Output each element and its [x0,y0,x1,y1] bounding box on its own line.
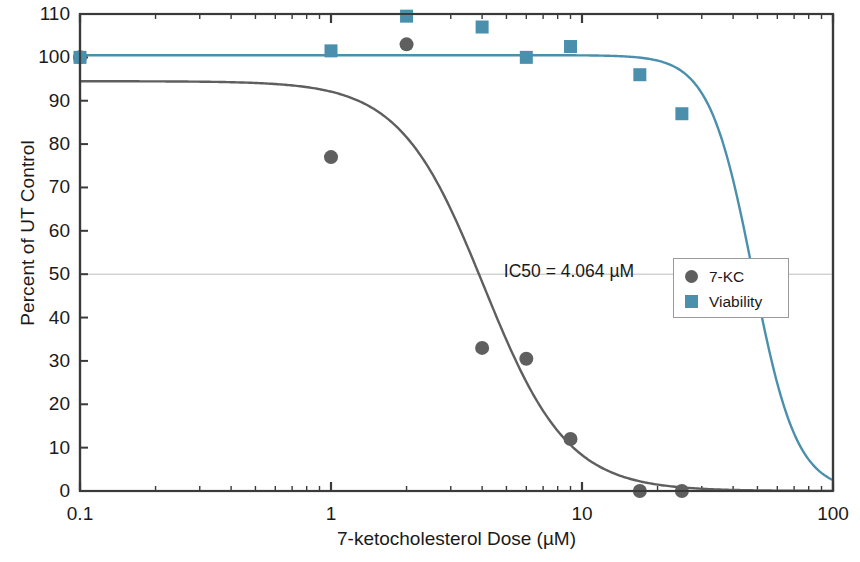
legend-label: Viability [709,293,762,311]
data-point-viability [564,40,577,53]
data-point-7-kc [400,37,414,51]
data-point-viability [633,68,646,81]
data-point-viability [520,51,533,64]
data-point-7-kc [475,341,489,355]
legend-item-7-kc[interactable]: 7-KC [674,264,788,289]
legend-label: 7-KC [709,268,744,286]
data-point-viability [325,44,338,57]
dose-response-chart: Percent of UT Control 7-ketocholesterol … [0,0,860,562]
legend-circle-marker-icon [685,270,698,283]
data-point-7-kc [564,432,578,446]
chart-legend: 7-KCViability [673,258,789,318]
plot-frame [80,14,833,491]
ic50-annotation: IC50 = 4.064 µM [504,261,634,282]
legend-item-viability[interactable]: Viability [674,289,788,314]
data-point-viability [400,10,413,23]
data-point-7-kc [519,352,533,366]
data-point-viability [675,107,688,120]
data-point-viability [476,21,489,34]
legend-square-marker-icon [685,295,698,308]
data-point-7-kc [324,150,338,164]
